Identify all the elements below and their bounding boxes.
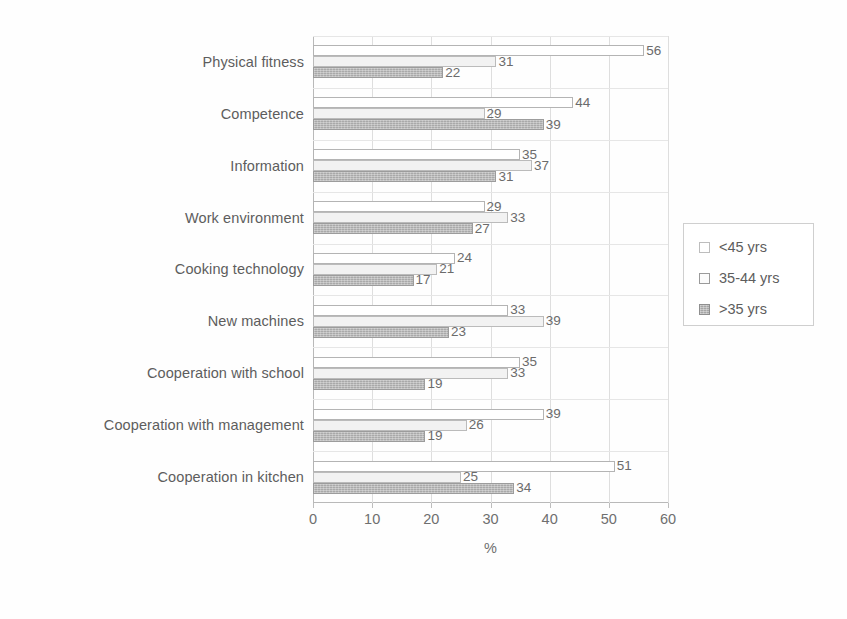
bar: 39 — [313, 119, 544, 130]
bar-group: Work environment293327 — [313, 192, 668, 244]
bar: 35 — [313, 357, 520, 368]
category-label: Information — [230, 158, 304, 174]
bar: 17 — [313, 275, 414, 286]
bar-value-label: 44 — [575, 95, 590, 110]
bar: 31 — [313, 171, 496, 182]
bar: 44 — [313, 97, 573, 108]
x-axis-tick-label: 40 — [542, 511, 558, 527]
bar-value-label: 34 — [516, 480, 531, 495]
bar-value-label: 39 — [546, 117, 561, 132]
bar-chart: Physical fitness563122Competence442939In… — [0, 0, 847, 619]
category-label: Work environment — [185, 210, 304, 226]
legend-item: 35-44 yrs — [699, 270, 779, 286]
category-label: Cooperation in kitchen — [158, 469, 305, 485]
bar-value-label: 39 — [546, 314, 561, 329]
gridline — [668, 36, 669, 503]
bar-value-label: 17 — [416, 273, 431, 288]
bar: 34 — [313, 483, 514, 494]
category-label: New machines — [208, 313, 304, 329]
legend-item-label: >35 yrs — [719, 301, 767, 317]
bar-value-label: 27 — [475, 221, 490, 236]
legend-item: >35 yrs — [699, 301, 767, 317]
x-axis-tick — [313, 503, 314, 508]
bar-value-label: 33 — [510, 365, 525, 380]
bar-value-label: 26 — [469, 417, 484, 432]
legend-item-label: <45 yrs — [719, 239, 767, 255]
bar-value-label: 37 — [534, 158, 549, 173]
bar: 23 — [313, 327, 449, 338]
filled-square-icon — [699, 304, 710, 315]
bar-value-label: 33 — [510, 210, 525, 225]
bar: 22 — [313, 67, 443, 78]
legend-item: <45 yrs — [699, 239, 767, 255]
bar-group: Competence442939 — [313, 88, 668, 140]
bar: 31 — [313, 56, 496, 67]
x-axis-title: % — [484, 540, 497, 556]
category-label: Cooperation with school — [147, 365, 304, 381]
bar: 39 — [313, 409, 544, 420]
x-axis-tick-label: 20 — [423, 511, 439, 527]
x-axis-tick-label: 50 — [601, 511, 617, 527]
open-square-icon — [699, 273, 710, 284]
bar: 24 — [313, 253, 455, 264]
x-axis-tick-label: 60 — [660, 511, 676, 527]
bar: 29 — [313, 201, 485, 212]
bar: 33 — [313, 305, 508, 316]
bar: 25 — [313, 472, 461, 483]
legend: <45 yrs35-44 yrs>35 yrs — [683, 223, 814, 326]
bar: 29 — [313, 108, 485, 119]
bar-value-label: 31 — [498, 54, 513, 69]
bar: 33 — [313, 368, 508, 379]
x-axis-tick — [609, 503, 610, 508]
bar-value-label: 39 — [546, 406, 561, 421]
category-label: Competence — [221, 106, 304, 122]
bar-group: Cooperation with management392619 — [313, 399, 668, 451]
legend-item-label: 35-44 yrs — [719, 270, 779, 286]
bar: 19 — [313, 379, 425, 390]
bar-value-label: 51 — [617, 458, 632, 473]
x-axis-tick — [372, 503, 373, 508]
bar-group: Cooperation with school353319 — [313, 347, 668, 399]
bar: 35 — [313, 149, 520, 160]
bar-group: Information353731 — [313, 140, 668, 192]
bar: 19 — [313, 431, 425, 442]
bar: 39 — [313, 316, 544, 327]
bar-value-label: 24 — [457, 251, 472, 266]
bar: 27 — [313, 223, 473, 234]
bar-value-label: 23 — [451, 325, 466, 340]
category-label: Physical fitness — [202, 54, 304, 70]
x-axis-tick — [431, 503, 432, 508]
bar-value-label: 19 — [427, 428, 442, 443]
bar: 56 — [313, 45, 644, 56]
plot-area: Physical fitness563122Competence442939In… — [313, 36, 668, 503]
bar-value-label: 22 — [445, 65, 460, 80]
category-label: Cooperation with management — [104, 417, 304, 433]
bar-value-label: 56 — [646, 43, 661, 58]
x-axis-tick-label: 30 — [482, 511, 498, 527]
x-axis-tick-label: 0 — [309, 511, 317, 527]
bar-value-label: 31 — [498, 169, 513, 184]
bar-group: New machines333923 — [313, 295, 668, 347]
bar-value-label: 21 — [439, 262, 454, 277]
bar-group: Cooking technology242117 — [313, 244, 668, 296]
x-axis-tick-label: 10 — [364, 511, 380, 527]
x-axis-tick — [491, 503, 492, 508]
x-axis-tick — [668, 503, 669, 508]
bar: 26 — [313, 420, 467, 431]
category-label: Cooking technology — [175, 261, 304, 277]
x-axis-tick — [550, 503, 551, 508]
open-square-icon — [699, 242, 710, 253]
bar-value-label: 19 — [427, 376, 442, 391]
bar-group: Cooperation in kitchen512534 — [313, 451, 668, 503]
bar-group: Physical fitness563122 — [313, 36, 668, 88]
